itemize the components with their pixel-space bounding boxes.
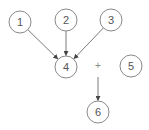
node-1: 1 — [9, 11, 31, 33]
node-label: 5 — [128, 60, 134, 72]
graph-diagram: 123456 + — [0, 0, 149, 130]
node-3: 3 — [100, 9, 122, 31]
operator-layer: + — [95, 60, 101, 71]
node-label: 3 — [108, 14, 114, 26]
plus-operator-label: + — [95, 60, 101, 71]
node-label: 6 — [95, 106, 101, 118]
node-label: 4 — [63, 61, 69, 73]
node-6: 6 — [87, 101, 109, 123]
edge-1-to-4 — [28, 30, 58, 59]
node-4: 4 — [55, 56, 77, 78]
node-5: 5 — [120, 55, 142, 77]
node-2: 2 — [55, 9, 77, 31]
edge-3-to-4 — [74, 28, 103, 59]
nodes-layer: 123456 — [9, 9, 142, 123]
node-label: 1 — [17, 16, 23, 28]
node-label: 2 — [63, 14, 69, 26]
